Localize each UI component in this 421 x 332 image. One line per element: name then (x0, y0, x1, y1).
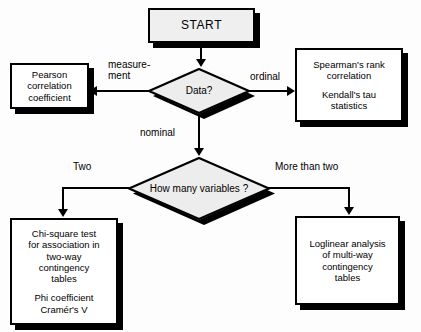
node-chi-square: Chi-square test for association in two-w… (10, 218, 118, 325)
node-pearson-line3: coefficient (28, 92, 71, 103)
edge-label-two: Two (73, 161, 91, 172)
node-data-decision-label: Data? (186, 85, 213, 97)
node-variables-decision: How many variables ? (128, 157, 270, 220)
arrowhead-data-to-spearman (287, 86, 295, 96)
node-loglinear-line2: of multi-way (322, 249, 373, 260)
arrowhead-data-to-pearson (89, 86, 97, 96)
node-loglinear: Loglinear analysis of multi-way continge… (295, 216, 400, 305)
connector-variables-to-chisq-vertical (62, 187, 64, 211)
node-chi-square-line5: tables (51, 273, 76, 284)
node-loglinear-line1: Loglinear analysis (309, 238, 385, 249)
arrowhead-data-to-variables (194, 148, 204, 156)
node-start-label: START (181, 18, 222, 32)
node-loglinear-line3: contingency (322, 261, 373, 272)
edge-label-ordinal: ordinal (250, 71, 280, 82)
edge-label-more-than-two: More than two (275, 161, 338, 172)
connector-data-to-variables (198, 114, 200, 150)
edge-label-nominal: nominal (140, 127, 175, 138)
node-chi-square-line7: Cramér's V (40, 304, 87, 315)
node-spearman-line3: Kendall's tau (322, 89, 376, 100)
flowchart-canvas: START Data? measure- ment Pearson correl… (0, 0, 421, 332)
edge-label-measurement: measure- ment (108, 59, 150, 81)
node-pearson-line2: correlation (27, 80, 71, 91)
node-chi-square-line6: Phi coefficient (35, 292, 94, 303)
arrowhead-start-to-data (196, 59, 206, 67)
connector-data-to-pearson (96, 90, 150, 92)
node-loglinear-line4: tables (335, 272, 360, 283)
connector-variables-to-loglinear-vertical (348, 187, 350, 209)
node-chi-square-line1: Chi-square test (32, 228, 96, 239)
node-spearman-line4: statistics (331, 100, 367, 111)
node-pearson: Pearson correlation coefficient (10, 63, 89, 109)
connector-data-to-spearman (248, 90, 288, 92)
node-data-decision: Data? (148, 68, 250, 114)
data-decision-face: Data? (148, 68, 250, 114)
arrowhead-variables-to-chisq (58, 209, 68, 217)
node-chi-square-line3: two-way (47, 251, 82, 262)
node-spearman: Spearman's rank correlation Kendall's ta… (295, 48, 403, 122)
arrowhead-variables-to-loglinear (344, 207, 354, 215)
node-chi-square-line2: for association in (28, 239, 99, 250)
node-start: START (148, 8, 255, 43)
node-chi-square-line4: contingency (39, 262, 90, 273)
node-spearman-line1: Spearman's rank (313, 59, 385, 70)
connector-variables-to-chisq-horizontal (62, 187, 130, 189)
node-spearman-line2: correlation (327, 70, 371, 81)
variables-decision-face: How many variables ? (128, 157, 270, 220)
connector-variables-to-loglinear-horizontal (268, 187, 350, 189)
node-variables-line1: How many (150, 183, 197, 194)
node-variables-line2: variables ? (200, 183, 248, 194)
node-pearson-line1: Pearson (32, 69, 67, 80)
